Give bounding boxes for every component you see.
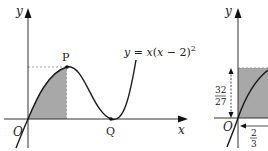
height-label-denominator: 27 — [215, 97, 227, 107]
y-axis-arrow-icon-right — [235, 8, 242, 18]
height-arrow-up-icon — [229, 68, 234, 74]
origin-label-right: O — [223, 120, 233, 134]
origin-label-left: O — [13, 125, 23, 139]
x-axis-label-left: x — [178, 123, 185, 137]
point-p — [65, 65, 69, 69]
y-axis-label-left: y — [15, 4, 23, 18]
equation-label: y = x(x − 2)2 — [123, 44, 196, 59]
point-q — [109, 117, 113, 121]
width-label-denominator: 3 — [251, 139, 257, 149]
shaded-rectangle-right — [238, 68, 268, 118]
width-label-numerator: 2 — [251, 128, 257, 138]
x-axis-arrow-icon — [178, 116, 188, 123]
width-arrow-left-icon — [240, 124, 246, 129]
height-label-numerator: 32 — [215, 85, 226, 95]
point-q-label: Q — [106, 125, 115, 138]
diagram-canvas: y x O P Q y = x(x − 2)2 y O 32 27 2 — [0, 0, 268, 151]
curve-left — [16, 60, 136, 148]
height-arrow-down-icon — [229, 112, 234, 118]
right-figure: y O 32 27 2 3 — [214, 4, 268, 149]
y-axis-label-right: y — [224, 4, 232, 18]
left-figure: y x O P Q y = x(x − 2)2 — [4, 4, 196, 148]
shaded-region-left — [28, 67, 67, 119]
y-axis-arrow-icon — [25, 8, 32, 18]
point-p-label: P — [62, 51, 70, 64]
